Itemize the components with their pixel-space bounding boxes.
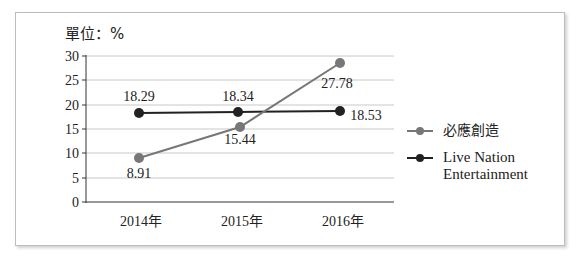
label-biying-2015: 15.44 <box>224 132 256 147</box>
point-biying-2015 <box>235 122 245 132</box>
point-live-nation-2015 <box>233 107 243 117</box>
legend: 必應創造 Live Nation Entertainment <box>407 122 528 193</box>
y-tick-30: 30 <box>65 49 79 64</box>
x-tick-2016: 2016年 <box>322 214 364 229</box>
legend-label-line2: Entertainment <box>443 166 528 182</box>
x-tick-2014: 2014年 <box>120 214 162 229</box>
label-live-nation-2015: 18.34 <box>222 89 254 104</box>
point-live-nation-2014 <box>134 108 144 118</box>
legend-marker-gray-line-icon <box>407 122 437 139</box>
legend-item-biying: 必應創造 <box>407 122 528 139</box>
y-tick-5: 5 <box>72 171 79 186</box>
point-biying-2016 <box>335 58 345 68</box>
legend-label-live-nation: Live Nation Entertainment <box>443 149 528 183</box>
y-tick-0: 0 <box>72 195 79 210</box>
legend-marker-black-line-icon <box>407 149 437 166</box>
legend-label-biying: 必應創造 <box>443 122 499 139</box>
legend-label-line1: Live Nation <box>443 149 515 165</box>
y-tick-20: 20 <box>65 98 79 113</box>
x-tick-2015: 2015年 <box>221 214 263 229</box>
label-live-nation-2016: 18.53 <box>350 108 382 123</box>
label-biying-2016: 27.78 <box>321 76 353 91</box>
point-biying-2014 <box>134 153 144 163</box>
point-live-nation-2016 <box>335 106 345 116</box>
y-tick-25: 25 <box>65 73 79 88</box>
y-tick-10: 10 <box>65 146 79 161</box>
label-live-nation-2014: 18.29 <box>123 89 155 104</box>
label-biying-2014: 8.91 <box>127 166 152 181</box>
y-tick-15: 15 <box>65 122 79 137</box>
legend-item-live-nation: Live Nation Entertainment <box>407 149 528 183</box>
